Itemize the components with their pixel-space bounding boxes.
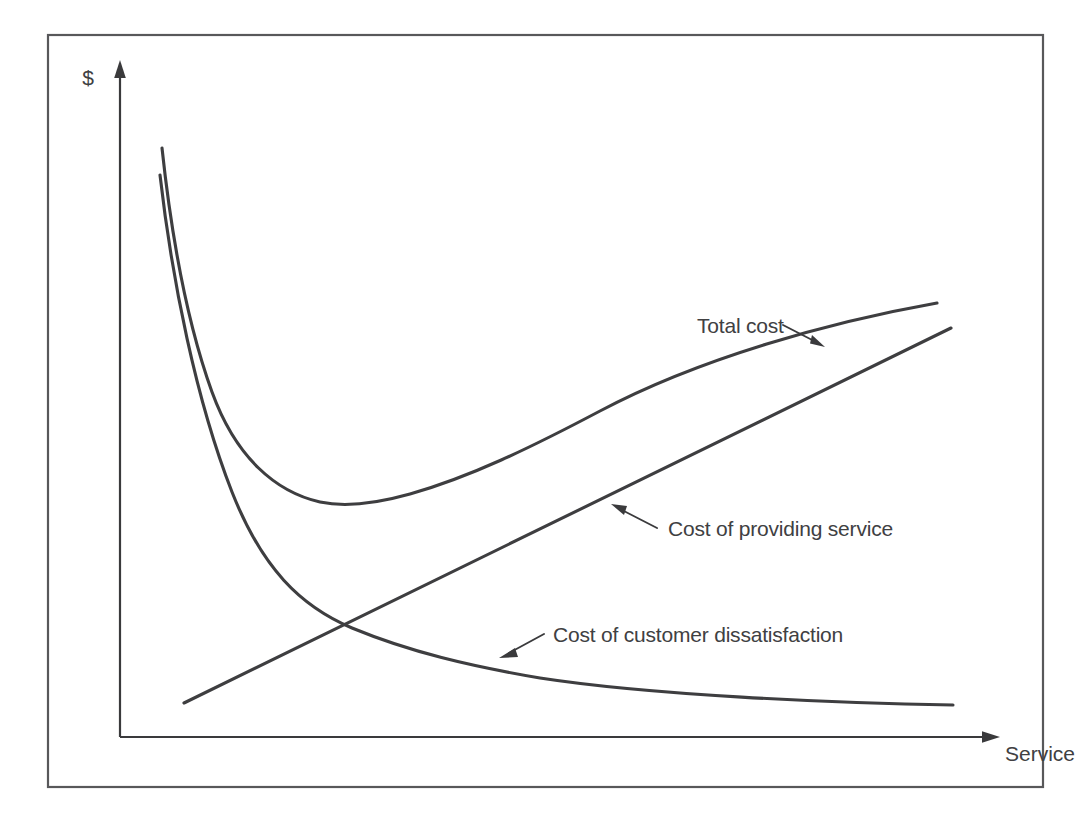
annotation-total-cost-label: Total cost <box>697 314 784 337</box>
annotation-cost-of-providing-service-label: Cost of providing service <box>668 517 893 540</box>
x-axis-label: Service <box>1005 742 1075 765</box>
annotation-cost-of-providing-service-arrowhead <box>611 504 627 515</box>
annotation-cost-of-customer-dissatisfaction-label: Cost of customer dissatisfaction <box>553 623 843 646</box>
annotation-cost-of-providing-service-leader <box>620 509 657 528</box>
figure-border <box>48 35 1043 787</box>
x-axis-arrowhead <box>982 731 1000 743</box>
series-cost-of-providing-service <box>184 328 951 703</box>
annotation-total-cost-arrowhead <box>810 335 825 347</box>
y-axis-label: $ <box>82 66 94 89</box>
series-total-cost <box>162 148 937 505</box>
annotation-cost-of-customer-dissatisfaction-arrowhead <box>499 648 518 658</box>
annotation-cost-of-customer-dissatisfaction: Cost of customer dissatisfaction <box>499 623 843 658</box>
annotation-cost-of-providing-service: Cost of providing service <box>611 504 893 540</box>
y-axis-arrowhead <box>114 60 126 78</box>
chart-figure: $ Service Total cost Cost of providing s… <box>0 0 1079 833</box>
chart-canvas: $ Service Total cost Cost of providing s… <box>0 0 1079 833</box>
annotation-total-cost: Total cost <box>697 314 825 347</box>
